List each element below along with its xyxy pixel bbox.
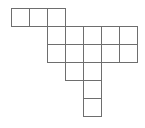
grid-cell [47,8,66,27]
grid-cell [101,44,120,63]
grid-cell [83,80,102,99]
grid-cell [65,44,84,63]
grid-cell [47,44,66,63]
grid-cell [29,8,48,27]
grid-cell [83,44,102,63]
grid-cell [11,8,30,27]
grid-cell [65,26,84,45]
grid-cell [83,62,102,81]
grid-cell [83,98,102,117]
grid-cell [65,62,84,81]
grid-cell [83,26,102,45]
grid-cell [119,26,138,45]
grid-cell [119,44,138,63]
grid-cell [47,26,66,45]
grid-cell [101,26,120,45]
polyomino-grid [0,0,145,128]
